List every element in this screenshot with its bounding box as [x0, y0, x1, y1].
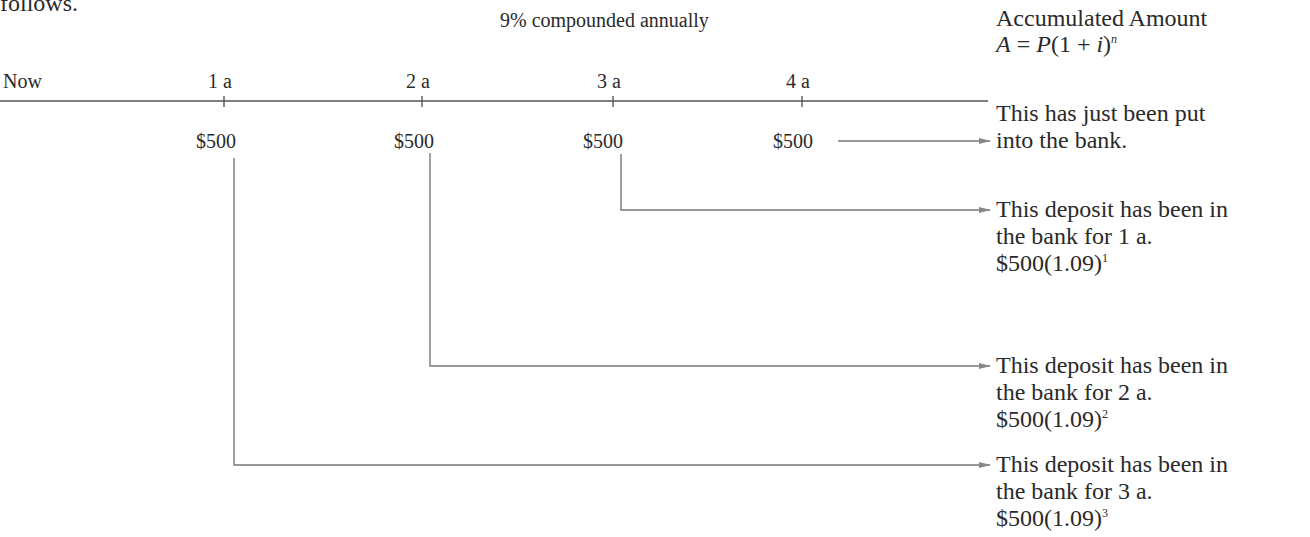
annotation-deposit-2-line2: the bank for 2 a.: [996, 379, 1153, 406]
annotation-deposit-1-line1: This deposit has been in: [996, 451, 1228, 478]
formula-base: $500(1.09): [996, 406, 1102, 432]
annotation-deposit-1-formula: $500(1.09)3: [996, 505, 1108, 532]
annotation-deposit-1-line2: the bank for 3 a.: [996, 478, 1153, 505]
formula-exponent: 3: [1102, 506, 1108, 520]
annotation-deposit-3-line1: This deposit has been in: [996, 196, 1228, 223]
annotation-deposit-3-line2: the bank for 1 a.: [996, 223, 1153, 250]
connector-deposit-1: [234, 158, 990, 465]
annotation-deposit-2-line1: This deposit has been in: [996, 352, 1228, 379]
annotation-deposit-3-formula: $500(1.09)1: [996, 250, 1108, 277]
formula-exponent: 1: [1102, 251, 1108, 265]
connector-deposit-3: [621, 154, 990, 210]
connector-deposit-2: [430, 153, 990, 366]
annotation-deposit-2-formula: $500(1.09)2: [996, 406, 1108, 433]
annotation-deposit-4-line2: into the bank.: [996, 127, 1127, 154]
formula-base: $500(1.09): [996, 505, 1102, 531]
annotation-deposit-4-line1: This has just been put: [996, 100, 1205, 127]
formula-exponent: 2: [1102, 407, 1108, 421]
formula-base: $500(1.09): [996, 250, 1102, 276]
